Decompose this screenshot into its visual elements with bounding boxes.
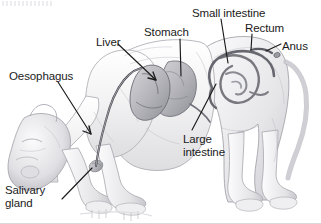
label-salivary-gland: Salivary gland [5, 184, 45, 209]
label-stomach: Stomach [144, 26, 189, 39]
label-anus: Anus [282, 40, 308, 53]
label-large-intestine: Large intestine [183, 133, 225, 158]
bottom-divider [0, 223, 321, 224]
cat-body-outline [8, 36, 307, 221]
label-rectum: Rectum [245, 22, 284, 35]
figure-canvas: Small intestine Rectum Anus Stomach Live… [0, 0, 321, 224]
label-liver: Liver [96, 36, 120, 49]
label-small-intestine: Small intestine [192, 7, 265, 20]
label-oesophagus: Oesophagus [9, 70, 73, 83]
